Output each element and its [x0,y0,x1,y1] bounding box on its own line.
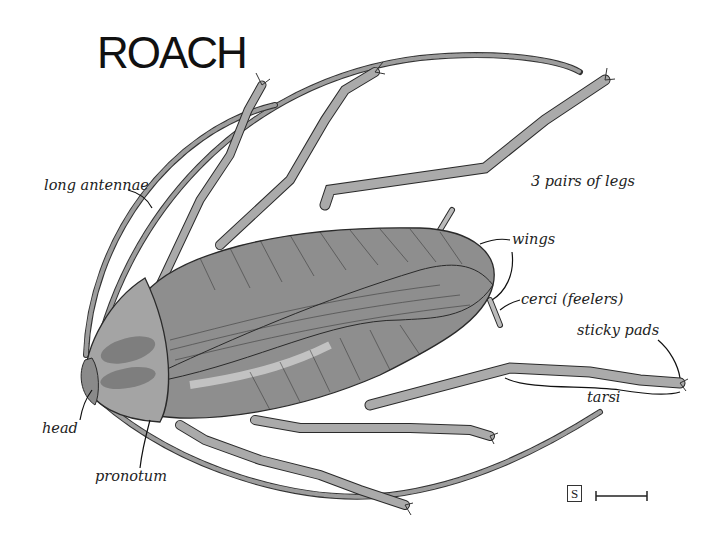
scale-bar [596,491,647,501]
label-sticky-pads: sticky pads [577,322,659,338]
label-pronotum: pronotum [95,468,167,484]
scale-symbol: S [567,485,582,502]
roach-illustration [0,0,705,545]
label-three-pairs-of-legs: 3 pairs of legs [531,173,635,189]
label-tarsi: tarsi [587,389,620,405]
label-wings: wings [512,231,555,247]
label-head: head [42,420,78,436]
label-long-antennae: long antennae [44,177,149,193]
label-cerci: cerci (feelers) [521,291,623,307]
